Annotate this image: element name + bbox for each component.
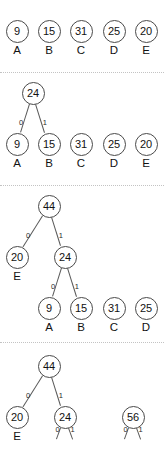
- figure-canvas: 9A15B31C25D20E01249A15B31C25D20E01014420…: [0, 0, 164, 451]
- tree-node-p2-n20[interactable]: 20: [135, 133, 158, 156]
- tree-node-p2-n24[interactable]: 24: [22, 82, 45, 105]
- leaf-label-p4-n20: E: [6, 431, 29, 443]
- edge-label-1: 1: [39, 119, 51, 127]
- leaf-label-p3-n25: D: [135, 322, 158, 334]
- tree-node-p1-n9[interactable]: 9: [6, 20, 29, 43]
- edge-label-0: 0: [22, 392, 34, 400]
- panel-divider-1: [0, 72, 164, 73]
- tree-node-p2-n9[interactable]: 9: [6, 133, 29, 156]
- edge-label-1: 1: [71, 283, 83, 291]
- tree-node-p3-n31[interactable]: 31: [103, 297, 126, 320]
- tree-node-p3-n44[interactable]: 44: [38, 195, 61, 218]
- tree-node-p3-n20[interactable]: 20: [6, 246, 29, 269]
- leaf-label-p1-n9: A: [6, 45, 29, 57]
- leaf-label-p1-n31: C: [70, 45, 93, 57]
- leaf-label-p3-n15: B: [70, 322, 93, 334]
- tree-node-p2-n31[interactable]: 31: [70, 133, 93, 156]
- tree-node-p1-n25[interactable]: 25: [103, 20, 126, 43]
- tree-node-p3-n15[interactable]: 15: [70, 297, 93, 320]
- edge-label-0: 0: [15, 119, 27, 127]
- tree-node-p4-n20[interactable]: 20: [6, 406, 29, 429]
- leaf-label-p3-n9: A: [38, 322, 61, 334]
- panel-divider-2: [0, 185, 164, 186]
- leaf-label-p2-n25: D: [103, 158, 126, 170]
- tree-node-p3-n9[interactable]: 9: [38, 297, 61, 320]
- tree-node-p1-n31[interactable]: 31: [70, 20, 93, 43]
- tree-node-p3-n25[interactable]: 25: [135, 297, 158, 320]
- edge-label-1: 1: [55, 392, 67, 400]
- tree-node-p1-n15[interactable]: 15: [38, 20, 61, 43]
- leaf-label-p1-n20: E: [135, 45, 158, 57]
- edge-label-1: 1: [55, 232, 67, 240]
- leaf-label-p2-n9: A: [6, 158, 29, 170]
- leaf-label-p1-n15: B: [38, 45, 61, 57]
- leaf-label-p2-n20: E: [135, 158, 158, 170]
- tree-node-p4-n24[interactable]: 24: [54, 406, 77, 429]
- tree-node-p1-n20[interactable]: 20: [135, 20, 158, 43]
- leaf-label-p2-n31: C: [70, 158, 93, 170]
- tree-node-p4-n44[interactable]: 44: [38, 355, 61, 378]
- leaf-label-p1-n25: D: [103, 45, 126, 57]
- leaf-label-p2-n15: B: [38, 158, 61, 170]
- tree-node-p3-n24[interactable]: 24: [54, 246, 77, 269]
- edge-label-0: 0: [47, 283, 59, 291]
- leaf-label-p3-n31: C: [103, 322, 126, 334]
- tree-node-p2-n15[interactable]: 15: [38, 133, 61, 156]
- edge-label-0: 0: [22, 232, 34, 240]
- tree-node-p4-n56[interactable]: 56: [122, 406, 145, 429]
- leaf-label-p3-n20: E: [6, 271, 29, 283]
- tree-node-p2-n25[interactable]: 25: [103, 133, 126, 156]
- panel-divider-3: [0, 342, 164, 343]
